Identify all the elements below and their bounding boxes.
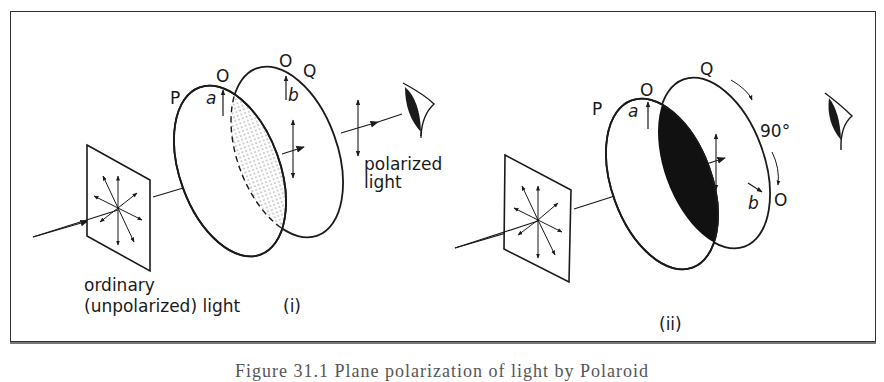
panel-tag-i: (i) [283,296,301,316]
label-arrow-b: b [288,85,299,105]
label-polarized: polarized [364,154,442,174]
label-arrow-a: a [628,101,638,121]
label-rotation-90: 90° [760,121,790,141]
label-axis-o-p: O [216,66,229,86]
panel-tag-ii: (ii) [659,314,682,334]
label-polarizer-p: P [170,88,180,108]
label-axis-o-p: O [640,80,653,100]
eye-icon [403,83,434,138]
panel-i: P O a O Q b polarized light ordinary (un… [33,51,442,316]
panel-ii: P O a Q 90° b O (ii) [455,59,852,334]
label-analyser-q: Q [303,61,316,81]
label-light: light [364,172,402,192]
rotation-arc-arrow-icon [731,80,752,100]
label-axis-o-q: O [279,51,292,71]
label-unpolarized-light: (unpolarized) light [84,296,240,316]
eye-icon [825,93,852,150]
figure-caption: Figure 31.1 Plane polarization of light … [0,361,884,382]
label-arrow-b: b [748,193,759,213]
label-arrow-a: a [206,88,216,108]
label-polarizer-p: P [592,99,602,119]
label-axis-o-q: O [774,190,787,210]
label-ordinary: ordinary [84,275,155,295]
label-analyser-q: Q [700,59,713,79]
